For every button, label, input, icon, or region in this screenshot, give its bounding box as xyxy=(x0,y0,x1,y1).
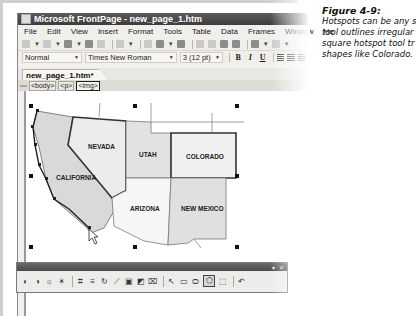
resize-handle-top-left[interactable] xyxy=(29,104,33,108)
toggle-pane-icon[interactable] xyxy=(116,40,124,48)
toolbar-separator xyxy=(140,40,141,49)
undo-icon[interactable] xyxy=(251,40,259,48)
figure-caption-line: Hotspots can be any s xyxy=(322,16,416,27)
toolbar-separator xyxy=(163,276,164,287)
new-dropdown-icon[interactable]: ▼ xyxy=(34,41,40,47)
menu-window[interactable]: Window xyxy=(285,27,313,36)
publish-icon[interactable] xyxy=(97,40,105,48)
paste-icon[interactable] xyxy=(220,40,228,48)
rotate-icon[interactable]: ⟋ xyxy=(112,277,121,286)
quick-tag-p[interactable]: <p> xyxy=(58,81,74,91)
figure-caption-line: shapes like Colorado. xyxy=(322,49,416,60)
pictures-toolbar-tools: ◐ ◑ ☼ ☀ ⌗ ≡ ↻ ⟋ ▣ ◩ ⌧ ↖ ▭ ⬭ ⬠ ⬚ ↶ xyxy=(17,271,287,291)
menu-edit[interactable]: Edit xyxy=(47,27,61,36)
quick-tag-img[interactable]: <img> xyxy=(76,81,99,91)
spelling-icon[interactable] xyxy=(177,40,185,48)
resize-handle-right[interactable] xyxy=(235,174,239,178)
menu-tools[interactable]: Tools xyxy=(163,27,182,36)
print-icon[interactable] xyxy=(144,40,152,48)
pictures-toolbar[interactable]: ▾ ✕ ◐ ◑ ☼ ☀ ⌗ ≡ ↻ ⟋ ▣ ◩ ⌧ ↖ ▭ ⬭ ⬠ ⬚ ↶ xyxy=(16,262,288,293)
title-bar: Microsoft FrontPage - new_page_1.htm xyxy=(18,13,308,25)
toolbar-options-icon[interactable]: ▾ xyxy=(272,264,275,271)
align-right-icon[interactable] xyxy=(298,54,305,61)
font-size-value: 3 (12 pt) xyxy=(183,53,211,62)
resize-handle-left[interactable] xyxy=(29,174,33,178)
figure-caption-line: square hotspot tool tr xyxy=(322,38,416,49)
style-select[interactable]: Normal ▼ xyxy=(22,52,82,63)
font-size-select[interactable]: 3 (12 pt) ▼ xyxy=(180,52,223,63)
italic-button[interactable]: I xyxy=(245,53,255,62)
format-painter-icon[interactable] xyxy=(232,40,240,48)
label-new-mexico: NEW MEXICO xyxy=(181,205,224,212)
align-left-icon[interactable] xyxy=(277,54,284,61)
undo-dropdown-icon[interactable]: ▼ xyxy=(263,41,269,47)
font-value: Times New Roman xyxy=(88,53,152,62)
open-dropdown-icon[interactable]: ▼ xyxy=(55,41,61,47)
pane-dropdown-icon[interactable]: ▼ xyxy=(128,41,134,47)
cut-icon[interactable] xyxy=(196,40,204,48)
chevron-down-icon: ▼ xyxy=(74,54,79,60)
label-nevada: NEVADA xyxy=(88,143,115,150)
search-icon[interactable] xyxy=(85,40,93,48)
preview-icon[interactable] xyxy=(156,40,164,48)
resize-handle-top-right[interactable] xyxy=(235,104,239,108)
redo-dropdown-icon[interactable]: ▼ xyxy=(284,41,290,47)
resize-handle-bottom-right[interactable] xyxy=(235,245,239,249)
redo-icon[interactable] xyxy=(272,40,280,48)
less-contrast-icon[interactable]: ◑ xyxy=(33,277,42,286)
figure-caption: Figure 4-9: Hotspots can be any s tool o… xyxy=(322,5,416,60)
toolbar-separator xyxy=(273,53,274,62)
open-icon[interactable] xyxy=(43,40,51,48)
menu-table[interactable]: Table xyxy=(192,27,211,36)
resize-handle-top[interactable] xyxy=(133,104,137,108)
toolbar-separator xyxy=(229,53,230,62)
menu-format[interactable]: Format xyxy=(128,27,153,36)
resize-handle-bottom[interactable] xyxy=(133,245,137,249)
polygonal-hotspot-icon[interactable]: ⬠ xyxy=(203,275,215,287)
less-brightness-icon[interactable]: ☀ xyxy=(57,277,66,286)
standard-toolbar: ▼ ▼ ▼ ▼ ▼ ▼ ▼ xyxy=(18,38,308,51)
save-dropdown-icon[interactable]: ▼ xyxy=(76,41,82,47)
menu-file[interactable]: File xyxy=(24,27,37,36)
line-style-icon[interactable]: ≡ xyxy=(88,277,97,286)
circular-hotspot-icon[interactable]: ⬭ xyxy=(191,277,200,286)
quick-tag-body[interactable]: <body> xyxy=(29,81,56,91)
color-icon[interactable]: ▣ xyxy=(124,277,133,286)
menu-bar: File Edit View Insert Format Tools Table… xyxy=(18,25,308,38)
menu-frames[interactable]: Frames xyxy=(248,27,275,36)
menu-view[interactable]: View xyxy=(71,27,88,36)
select-icon[interactable]: ↖ xyxy=(167,277,176,286)
label-utah: UTAH xyxy=(139,151,157,158)
menu-data[interactable]: Data xyxy=(221,27,238,36)
new-page-icon[interactable] xyxy=(22,40,30,48)
close-icon[interactable]: ✕ xyxy=(279,264,284,271)
resize-handle-bottom-left[interactable] xyxy=(29,245,33,249)
copy-icon[interactable] xyxy=(208,40,216,48)
more-brightness-icon[interactable]: ☼ xyxy=(45,277,54,286)
toolbar-separator xyxy=(247,40,248,49)
font-select[interactable]: Times New Roman ▼ xyxy=(85,52,177,63)
quick-tag-scroll-left[interactable] xyxy=(20,85,27,87)
rectangular-hotspot-icon[interactable]: ▭ xyxy=(179,277,188,286)
crop-icon[interactable]: ⌗ xyxy=(76,277,85,286)
align-center-icon[interactable] xyxy=(287,54,294,61)
underline-button[interactable]: U xyxy=(257,53,267,62)
pictures-toolbar-title-bar[interactable]: ▾ ✕ xyxy=(17,263,287,271)
toolbar-separator xyxy=(72,276,73,287)
bevel-icon[interactable]: ◩ xyxy=(136,277,145,286)
formatting-toolbar: Normal ▼ Times New Roman ▼ 3 (12 pt) ▼ B… xyxy=(18,51,308,63)
restore-icon[interactable]: ↶ xyxy=(237,277,246,286)
frontpage-app-icon xyxy=(21,14,31,24)
quick-tag-bar: <body> <p> <img> xyxy=(18,80,310,91)
menu-insert[interactable]: Insert xyxy=(98,27,118,36)
resample-icon[interactable]: ⌧ xyxy=(148,277,157,286)
highlight-hotspots-icon[interactable]: ⬚ xyxy=(218,277,227,286)
save-icon[interactable] xyxy=(64,40,72,48)
more-contrast-icon[interactable]: ◐ xyxy=(21,277,30,286)
flip-icon[interactable]: ↻ xyxy=(100,277,109,286)
preview-dropdown-icon[interactable]: ▼ xyxy=(168,41,174,47)
figure-caption-line: tool outlines irregular xyxy=(322,27,416,38)
bold-button[interactable]: B xyxy=(233,53,243,62)
toolbar-separator xyxy=(192,40,193,49)
window-title: Microsoft FrontPage - new_page_1.htm xyxy=(34,13,202,25)
